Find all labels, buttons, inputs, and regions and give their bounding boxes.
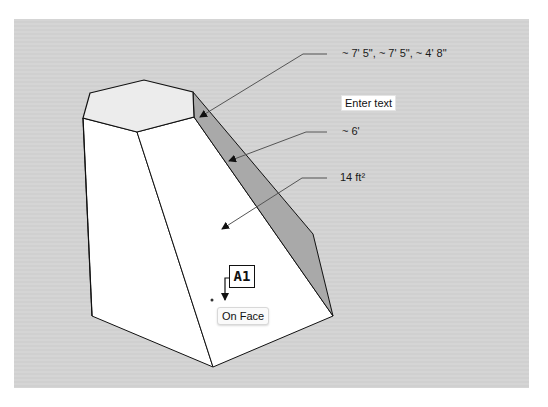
inference-point	[211, 299, 214, 302]
dimension-label-area: 14 ft²	[340, 171, 365, 183]
inference-tooltip: On Face	[217, 307, 269, 325]
dimension-label-edges: ~ 7' 5", ~ 7' 5", ~ 4' 8"	[342, 47, 447, 59]
model-geometry	[14, 19, 529, 388]
leader-line-1	[200, 54, 327, 117]
text-tool-cursor-icon: A1	[229, 265, 255, 288]
text-entry-field[interactable]: Enter text	[341, 95, 396, 111]
dimension-label-length: ~ 6'	[342, 125, 360, 137]
modeling-viewport[interactable]: ~ 7' 5", ~ 7' 5", ~ 4' 8" ~ 6' 14 ft² En…	[14, 19, 529, 388]
